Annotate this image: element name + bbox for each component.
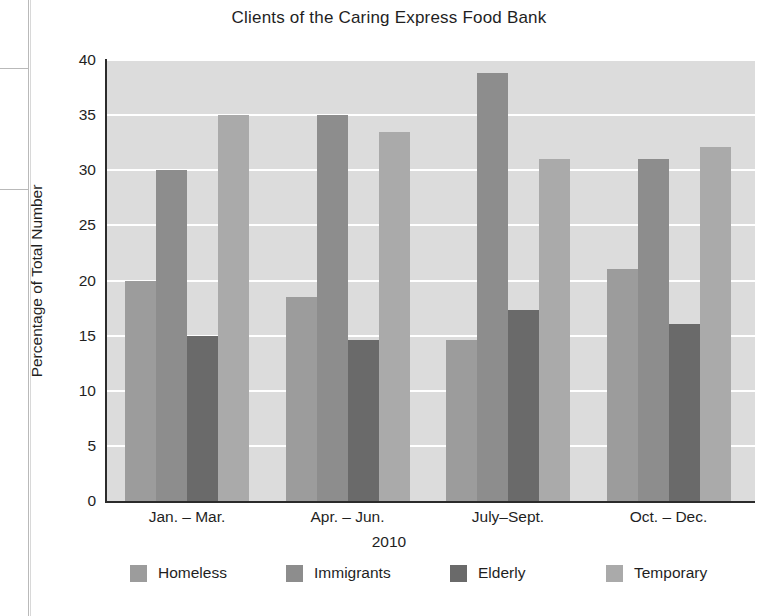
- x-axis-title: 2010: [0, 533, 778, 551]
- gridline: [107, 114, 755, 116]
- x-axis-line: [105, 501, 755, 503]
- plot-area: [107, 60, 755, 501]
- x-axis-tick-labels: Jan. – Mar.Apr. – Jun.July–Sept.Oct. – D…: [107, 508, 755, 532]
- legend-swatch-icon: [606, 565, 623, 582]
- bar: [669, 324, 700, 502]
- bar: [125, 281, 156, 502]
- x-axis-tick-label: Jan. – Mar.: [149, 508, 226, 526]
- bar: [317, 115, 348, 501]
- bar: [477, 73, 508, 501]
- chart-title: Clients of the Caring Express Food Bank: [0, 8, 778, 28]
- legend-item[interactable]: Elderly: [450, 564, 525, 582]
- y-axis-title: Percentage of Total Number: [28, 81, 46, 481]
- bar: [700, 147, 731, 501]
- x-axis-tick-label: Oct. – Dec.: [630, 508, 708, 526]
- y-axis-tick-label: 40: [56, 51, 96, 69]
- legend-item[interactable]: Immigrants: [286, 564, 391, 582]
- y-axis-tick-label: 15: [56, 327, 96, 345]
- legend-label: Immigrants: [314, 564, 391, 582]
- bar: [286, 297, 317, 501]
- legend-label: Temporary: [634, 564, 707, 582]
- y-axis-line: [105, 59, 107, 503]
- y-axis-tick-label: 5: [56, 437, 96, 455]
- bar: [508, 310, 539, 501]
- bar: [446, 340, 477, 501]
- y-axis-tick-label: 20: [56, 272, 96, 290]
- legend-item[interactable]: Homeless: [130, 564, 227, 582]
- legend-swatch-icon: [130, 565, 147, 582]
- bar: [607, 269, 638, 501]
- legend-swatch-icon: [286, 565, 303, 582]
- legend-label: Elderly: [478, 564, 525, 582]
- bar: [187, 336, 218, 501]
- bar: [638, 159, 669, 501]
- y-axis-tick-label: 30: [56, 161, 96, 179]
- y-axis-tick-label: 35: [56, 106, 96, 124]
- y-axis-tick-labels: 0510152025303540: [50, 60, 96, 501]
- bar: [218, 115, 249, 501]
- x-axis-tick-label: July–Sept.: [472, 508, 544, 526]
- y-axis-tick-label: 25: [56, 216, 96, 234]
- bar: [539, 159, 570, 501]
- legend-item[interactable]: Temporary: [606, 564, 707, 582]
- y-axis-tick-label: 10: [56, 382, 96, 400]
- bar: [379, 132, 410, 501]
- chart-legend: HomelessImmigrantsElderlyTemporary: [0, 564, 778, 590]
- bar: [156, 170, 187, 501]
- bar: [348, 340, 379, 501]
- legend-swatch-icon: [450, 565, 467, 582]
- y-axis-tick-label: 0: [56, 492, 96, 510]
- page-scan-rule-top: [0, 68, 29, 69]
- x-axis-tick-label: Apr. – Jun.: [310, 508, 384, 526]
- legend-label: Homeless: [158, 564, 227, 582]
- gridline: [107, 59, 755, 61]
- page-scan-rule-middle: [0, 189, 29, 190]
